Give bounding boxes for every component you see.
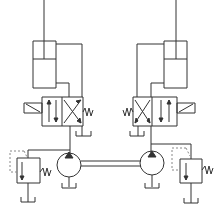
right-relief-body <box>180 159 202 183</box>
right-relief-feed <box>151 144 191 159</box>
left-cylinder <box>33 0 56 88</box>
right-rod-line <box>151 83 164 97</box>
right-directional-valve <box>123 97 195 126</box>
right-pump-arrow-icon <box>148 151 156 157</box>
right-solenoid-coil-icon <box>179 104 193 112</box>
left-relief-spring-icon <box>40 168 51 176</box>
right-relief-spring-icon <box>202 166 213 174</box>
left-valve-spring-icon <box>83 108 93 116</box>
left-relief-valve <box>10 151 51 202</box>
right-cylinder <box>164 0 187 88</box>
drive-shaft <box>81 161 141 166</box>
right-valve-body <box>133 97 177 126</box>
left-directional-valve <box>24 97 93 126</box>
right-valve-spring-icon <box>123 108 133 116</box>
left-relief-body <box>17 158 40 183</box>
left-solenoid-coil-icon <box>26 104 40 112</box>
left-rod-line <box>56 83 69 97</box>
right-relief-valve <box>172 148 213 203</box>
right-circuit <box>123 0 213 203</box>
left-pump <box>57 152 81 188</box>
left-valve-tank-icon <box>76 131 91 136</box>
left-circuit <box>10 0 93 202</box>
right-valve-tank-icon <box>130 131 144 136</box>
hydraulic-schematic <box>0 0 222 209</box>
right-pump <box>140 151 164 188</box>
